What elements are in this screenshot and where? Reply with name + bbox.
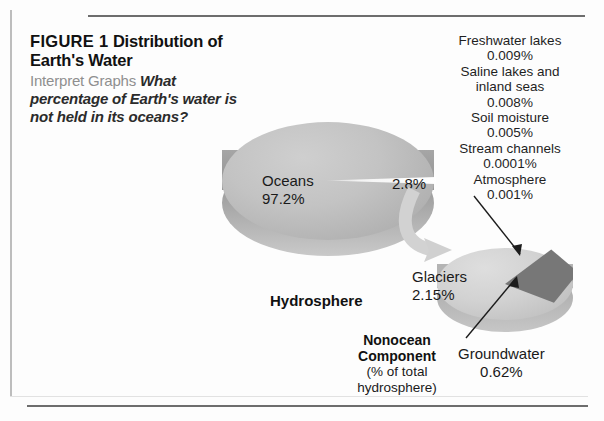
component-value-saline-lakes: 0.008% [424, 95, 596, 110]
bottom-rule [27, 405, 588, 407]
pie-label-nonocean-percent: 2.8% [392, 175, 426, 192]
groundwater-name: Groundwater [458, 345, 545, 363]
component-value-freshwater-lakes: 0.009% [424, 48, 596, 63]
figure-page: FIGURE 1 Distribution of Earth's Water I… [0, 0, 604, 421]
pie-label-nonocean-component: Nonocean Component (% of total hydrosphe… [337, 333, 457, 395]
nonocean-caption-line3: (% of total [367, 364, 428, 379]
nonocean-caption-line1: Nonocean [337, 333, 457, 349]
pie-label-oceans: Oceans 97.2% [262, 172, 314, 207]
component-name-inland-seas: inland seas [424, 79, 596, 94]
figure-number: FIGURE 1 [30, 32, 109, 50]
top-rule [88, 15, 585, 17]
caption-lead-in: Interpret Graphs [30, 72, 136, 89]
glaciers-name: Glaciers [412, 268, 467, 286]
component-name-atmosphere: Atmosphere [424, 172, 596, 187]
groundwater-value: 0.62% [458, 363, 545, 381]
glaciers-value: 2.15% [412, 286, 467, 304]
component-name-soil-moisture: Soil moisture [424, 110, 596, 125]
pie-label-hydrosphere: Hydrosphere [270, 292, 363, 309]
left-margin-rule [10, 10, 12, 396]
figure-caption-body: Interpret Graphs What percentage of Eart… [30, 72, 245, 126]
component-name-saline-lakes: Saline lakes and [424, 64, 596, 79]
component-value-stream-channels: 0.0001% [424, 156, 596, 171]
component-label-list: Freshwater lakes 0.009% Saline lakes and… [424, 33, 596, 202]
component-value-atmosphere: 0.001% [424, 187, 596, 202]
pie-label-glaciers: Glaciers 2.15% [412, 268, 467, 303]
oceans-value: 97.2% [262, 190, 314, 208]
component-name-freshwater-lakes: Freshwater lakes [424, 33, 596, 48]
figure-title-line: FIGURE 1 Distribution of Earth's Water [30, 32, 245, 70]
component-name-stream-channels: Stream channels [424, 141, 596, 156]
figure-caption: FIGURE 1 Distribution of Earth's Water I… [30, 32, 245, 126]
component-value-soil-moisture: 0.005% [424, 125, 596, 140]
nonocean-caption-line4: hydrosphere) [357, 380, 437, 395]
faint-rule [10, 396, 588, 397]
pie-label-groundwater: Groundwater 0.62% [458, 345, 545, 380]
nonocean-caption-line2: Component [337, 349, 457, 365]
component-list-pointer-arrow [474, 196, 522, 256]
oceans-name: Oceans [262, 172, 314, 190]
